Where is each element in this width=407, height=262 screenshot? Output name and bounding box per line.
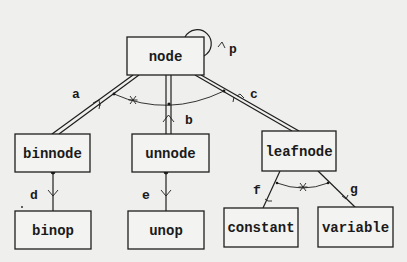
edge-label-e: e [142, 188, 150, 203]
entity-constant[interactable]: constant [224, 208, 298, 247]
arrow-head-icon [218, 42, 225, 48]
edge-label-f: f [253, 183, 261, 198]
arrow-head-icon [163, 115, 174, 122]
edge-a: a [52, 75, 139, 134]
edge-label-c: c [250, 87, 258, 102]
edge-label-p: p [229, 42, 237, 57]
entity-label: unop [149, 223, 183, 239]
exclusion-arc-bottom [276, 182, 330, 191]
entity-unnode[interactable]: unnode [132, 134, 209, 172]
entity-label: binop [32, 223, 74, 239]
star-constraint-icon [129, 96, 138, 104]
entity-label: constant [227, 220, 294, 236]
entity-label: unnode [145, 146, 195, 162]
tick-icon [233, 97, 234, 102]
edge-f: f [253, 171, 280, 208]
edge-e: e [142, 170, 171, 211]
entity-label: leafnode [265, 144, 332, 160]
er-diagram: p a b c d [0, 0, 407, 262]
entity-label: node [149, 49, 183, 65]
entity-leafnode[interactable]: leafnode [262, 131, 336, 171]
edge-label-b: b [185, 113, 193, 128]
entity-binop[interactable]: binop [15, 211, 91, 249]
entity-binnode[interactable]: binnode [15, 134, 90, 172]
entity-unop[interactable]: unop [128, 211, 204, 249]
edge-g: g [318, 171, 358, 208]
entity-label: binnode [23, 146, 82, 162]
entity-variable[interactable]: variable [318, 207, 393, 247]
star-constraint-icon [299, 183, 308, 191]
edge-label-d: d [30, 188, 38, 203]
scan-speck [21, 206, 23, 208]
entity-node[interactable]: node [127, 37, 204, 75]
exclusion-arc-top [113, 90, 226, 106]
edge-c: c [195, 75, 299, 131]
edge-label-g: g [350, 182, 358, 197]
edge-d: d [30, 170, 58, 211]
edge-label-a: a [72, 87, 80, 102]
entity-label: variable [322, 220, 389, 236]
